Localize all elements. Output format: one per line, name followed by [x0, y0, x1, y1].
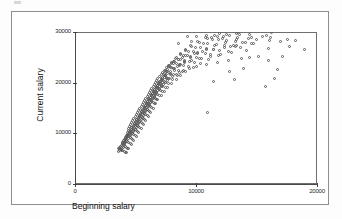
data-point	[210, 36, 213, 39]
data-point	[138, 114, 141, 117]
data-point	[224, 41, 227, 44]
data-point	[227, 50, 230, 53]
data-point	[174, 57, 177, 60]
data-point	[273, 77, 276, 80]
data-point	[235, 32, 238, 35]
data-point	[217, 54, 220, 57]
data-point	[190, 45, 193, 48]
data-point	[137, 121, 140, 124]
y-tick-mark	[73, 32, 77, 33]
data-point	[135, 135, 138, 138]
y-tick-mark	[73, 83, 77, 84]
data-point	[279, 40, 282, 43]
data-point	[270, 32, 273, 34]
data-point	[267, 59, 270, 62]
y-tick-label: 30000	[39, 28, 71, 34]
data-point	[130, 143, 133, 146]
data-point	[171, 78, 174, 81]
data-point	[252, 42, 255, 45]
data-point	[172, 73, 175, 76]
data-point	[121, 142, 124, 145]
data-point	[128, 130, 131, 133]
data-point	[156, 98, 159, 101]
data-point	[248, 56, 251, 59]
data-point	[175, 78, 178, 81]
data-point	[207, 58, 210, 61]
data-point	[140, 110, 143, 113]
data-point	[206, 111, 209, 114]
data-point	[209, 53, 212, 56]
data-point	[151, 97, 154, 100]
data-point	[205, 34, 208, 37]
data-point	[257, 55, 260, 58]
data-point	[228, 34, 231, 37]
data-point	[233, 78, 236, 81]
data-point	[239, 46, 242, 49]
data-point	[193, 61, 196, 64]
data-point	[212, 80, 215, 83]
data-point	[198, 41, 201, 44]
data-point	[250, 36, 253, 39]
data-point	[199, 46, 202, 49]
data-point	[234, 45, 237, 48]
data-point	[196, 52, 199, 55]
data-point	[213, 44, 216, 47]
data-point	[127, 137, 130, 140]
data-point	[176, 74, 179, 77]
data-point	[276, 68, 279, 71]
data-point	[177, 42, 180, 45]
data-point	[199, 62, 202, 65]
data-point	[179, 53, 182, 56]
data-point	[140, 127, 143, 130]
data-point	[142, 123, 145, 126]
data-point	[206, 37, 209, 40]
data-point	[245, 49, 248, 52]
data-point	[154, 102, 157, 105]
data-point	[192, 66, 195, 69]
data-point	[165, 77, 168, 80]
data-point	[169, 73, 172, 76]
data-point	[126, 134, 129, 137]
data-point	[144, 119, 147, 122]
x-tick-mark	[317, 183, 318, 187]
data-point	[178, 64, 181, 67]
data-point	[294, 39, 297, 42]
x-tick-mark	[196, 183, 197, 187]
data-point	[200, 57, 203, 60]
data-point	[156, 89, 159, 92]
data-point	[242, 67, 245, 70]
data-point	[170, 82, 173, 85]
data-point	[149, 111, 152, 114]
x-tick-label: 0	[59, 188, 91, 194]
data-point	[175, 62, 178, 65]
x-tick-label: 20000	[301, 188, 333, 194]
data-point	[217, 38, 220, 41]
chart-outer-border: 010000200003000001000020000 Current sala…	[11, 11, 329, 205]
data-point	[179, 74, 182, 77]
x-axis-label: Beginning salary	[72, 201, 135, 211]
data-point	[227, 59, 230, 62]
data-point	[205, 63, 208, 66]
data-point	[163, 90, 166, 93]
data-point	[281, 55, 284, 58]
data-point	[167, 65, 170, 68]
data-point	[230, 51, 233, 54]
data-point	[166, 86, 169, 89]
data-point	[261, 35, 264, 38]
data-point	[194, 46, 197, 49]
data-point	[122, 146, 125, 149]
data-point	[132, 139, 135, 142]
data-point	[212, 48, 215, 51]
data-point	[265, 34, 268, 37]
data-point	[144, 109, 147, 112]
data-point	[190, 40, 193, 43]
data-point	[184, 70, 187, 73]
data-point	[205, 48, 208, 51]
data-point	[255, 38, 258, 41]
data-point	[162, 73, 165, 76]
data-point	[186, 35, 189, 38]
data-point	[206, 42, 209, 45]
data-point	[164, 81, 167, 84]
data-point	[125, 151, 128, 154]
data-point	[184, 49, 187, 52]
